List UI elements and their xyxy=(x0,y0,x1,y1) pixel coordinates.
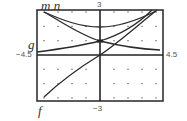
grid-dot xyxy=(57,26,58,27)
grid-dot xyxy=(85,40,86,41)
grid-dot xyxy=(127,26,128,27)
grid-dot xyxy=(43,40,44,41)
grid-dot xyxy=(85,97,86,98)
grid-dot xyxy=(71,26,72,27)
grid-dot xyxy=(127,83,128,84)
grid-dot xyxy=(155,83,156,84)
grid-dot xyxy=(127,12,128,13)
grid-dot xyxy=(85,83,86,84)
y-min-label: −3 xyxy=(93,105,102,113)
grid-dot xyxy=(71,69,72,70)
grid-dot xyxy=(141,12,142,13)
grid-dot xyxy=(71,97,72,98)
grid-dot xyxy=(113,69,114,70)
grid-dot xyxy=(141,83,142,84)
grid-dot xyxy=(127,69,128,70)
grid-dot xyxy=(113,40,114,41)
grid-dot xyxy=(141,97,142,98)
grid-dot xyxy=(127,40,128,41)
curve-label-mn: m n xyxy=(41,0,60,12)
graph-canvas xyxy=(0,0,187,121)
grid-dot xyxy=(155,69,156,70)
intersection-marker xyxy=(97,40,103,43)
grid-dot xyxy=(113,83,114,84)
grid-dot xyxy=(85,12,86,13)
grid-dot xyxy=(127,97,128,98)
grid-dot xyxy=(57,69,58,70)
grid-dot xyxy=(113,12,114,13)
grid-dot xyxy=(57,97,58,98)
x-min-label: −4.5 xyxy=(16,51,32,59)
grid-dot xyxy=(43,69,44,70)
grid-dot xyxy=(141,40,142,41)
y-max-label: 3 xyxy=(97,1,101,9)
grid-dot xyxy=(155,40,156,41)
grid-dot xyxy=(43,97,44,98)
grid-dot xyxy=(71,83,72,84)
grid-dot xyxy=(155,26,156,27)
grid-dot xyxy=(71,40,72,41)
grid-dot xyxy=(43,83,44,84)
grid-dot xyxy=(141,69,142,70)
grid-dot xyxy=(155,97,156,98)
x-max-label: 4.5 xyxy=(166,51,177,59)
grid-dot xyxy=(43,26,44,27)
grid-dot xyxy=(57,40,58,41)
grid-dot xyxy=(113,97,114,98)
grid-dot xyxy=(141,26,142,27)
curve-label-f: f xyxy=(38,104,42,117)
grid-dot xyxy=(71,12,72,13)
grid-dot xyxy=(85,69,86,70)
